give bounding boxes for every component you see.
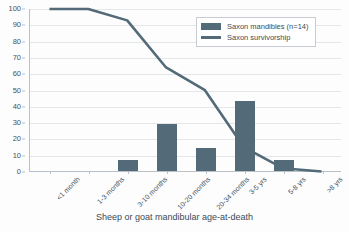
legend: Saxon mandibles (n=14) Saxon survivorshi… <box>196 17 316 47</box>
y-tick-mark <box>22 74 25 75</box>
legend-item-bars: Saxon mandibles (n=14) <box>201 21 309 32</box>
y-tick-mark <box>22 155 25 156</box>
legend-line-swatch-icon <box>201 36 221 39</box>
x-tick-label: <1 month <box>55 175 81 201</box>
x-tick-label: 1-3 months <box>95 175 125 205</box>
y-tick-mark <box>22 172 25 173</box>
y-tick-mark <box>22 9 25 10</box>
x-tick-label: >8 yrs <box>325 175 344 194</box>
x-axis-title: Sheep or goat mandibular age-at-death <box>0 212 349 222</box>
y-tick-label: 60 <box>13 70 21 78</box>
y-tick-mark <box>22 90 25 91</box>
y-tick-mark <box>22 41 25 42</box>
y-tick-label: 70 <box>13 54 21 62</box>
x-axis-labels: <1 month1-3 months3-10 months10-20 month… <box>29 174 341 208</box>
y-tick-label: 0 <box>17 168 21 176</box>
y-tick-label: 40 <box>13 103 21 111</box>
y-tick-mark <box>22 57 25 58</box>
y-tick-mark <box>22 123 25 124</box>
x-tick-label: 10-20 months <box>176 175 211 210</box>
y-tick-mark <box>22 25 25 26</box>
legend-label-line: Saxon survivorship <box>227 34 290 42</box>
x-tick-label: 3-10 months <box>135 175 167 207</box>
legend-bar-swatch-icon <box>201 23 221 30</box>
y-tick-label: 20 <box>13 136 21 144</box>
y-axis: 0102030405060708090100 <box>0 9 25 172</box>
y-tick-mark <box>22 139 25 140</box>
x-tick-label: 20-34 months <box>215 175 250 210</box>
y-tick-label: 50 <box>13 87 21 95</box>
y-tick-label: 90 <box>13 22 21 30</box>
x-tick-label: 5-8 yrs <box>286 175 306 195</box>
legend-item-line: Saxon survivorship <box>201 32 309 43</box>
chart-container: 0102030405060708090100 <1 month1-3 month… <box>0 0 349 232</box>
x-tick-label: 3-5 yrs <box>247 175 267 195</box>
y-tick-mark <box>22 106 25 107</box>
legend-label-bars: Saxon mandibles (n=14) <box>227 23 309 31</box>
y-tick-label: 10 <box>13 152 21 160</box>
y-tick-label: 30 <box>13 119 21 127</box>
y-tick-label: 80 <box>13 38 21 46</box>
y-tick-label: 100 <box>8 5 21 13</box>
